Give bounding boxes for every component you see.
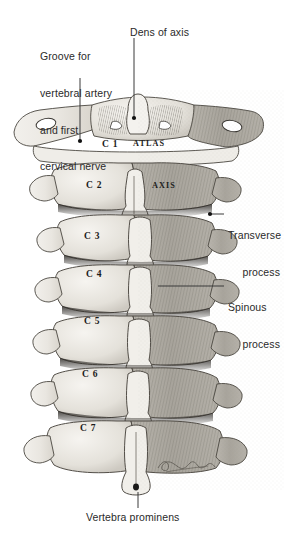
callout-groove-line1: Groove for — [40, 50, 112, 62]
callout-groove-line3: and first — [40, 124, 112, 136]
vertebra-label-c6: C 6 — [82, 369, 98, 379]
callout-groove-line2: vertebral artery — [40, 87, 112, 99]
vertebra-label-c7: C 7 — [80, 423, 96, 433]
callout-dens-of-axis: Dens of axis — [130, 26, 189, 38]
callout-spinous-line1: Spinous — [228, 301, 280, 313]
callout-groove-vertebral-artery: Groove for vertebral artery and first ce… — [40, 26, 112, 197]
vertebra-name-atlas: ATLAS — [133, 139, 165, 148]
vertebra-label-c4: C 4 — [86, 269, 102, 279]
vertebra-label-c3: C 3 — [84, 231, 100, 241]
vertebra-label-c2: C 2 — [86, 180, 102, 190]
vertebra-name-axis: AXIS — [152, 181, 176, 190]
callout-groove-line4: cervical nerve — [40, 160, 112, 172]
callout-vertebra-prominens: Vertebra prominens — [86, 511, 179, 523]
illustration-page: Groove for vertebral artery and first ce… — [0, 0, 284, 533]
vertebra-label-c1: C 1 — [102, 139, 118, 149]
callout-spinous-line2: process — [228, 338, 280, 350]
vertebra-label-c5: C 5 — [84, 316, 100, 326]
callout-transverse-line1: Transverse — [228, 229, 280, 241]
callout-spinous-process: Spinous process — [228, 277, 280, 375]
